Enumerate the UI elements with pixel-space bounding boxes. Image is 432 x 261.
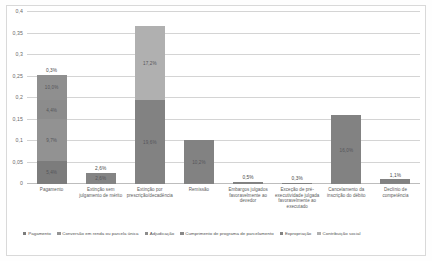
bar-stack[interactable]: 5,4%9,7%4,4%10,0%0,3% [37,75,67,184]
bar-total-label: 0,3% [292,176,303,181]
legend-swatch-icon [57,232,60,235]
bar-segment-value-label: 17,2% [135,60,165,65]
bar-segment-value-label: 9,7% [37,137,67,142]
bar-segment[interactable]: 19,6% [135,100,165,184]
plot-area: 00,050,10,150,20,250,30,350,4 5,4%9,7%4,… [27,12,420,184]
y-axis-tick-label: 0,3 [15,51,23,57]
legend-swatch-icon [280,232,283,235]
legend-item[interactable]: Cumprimento de programa de parcelamento [180,231,274,236]
bar-slot: 0,3% [273,12,322,184]
bar-segment-value-label: 5,4% [37,170,67,175]
bar-segment-value-label: 10,2% [184,160,214,165]
bar-stack[interactable]: 1,1% [380,179,410,184]
legend-label: Conversão em renda ou parcela única [62,231,138,236]
legend-swatch-icon [145,232,148,235]
x-axis-category-label: Extinção sem julgamento de mérito [76,187,125,198]
x-axis-category-label: Exceção de pré-executividade julgada fav… [273,187,322,209]
bar-stack[interactable]: 16,0% [331,115,361,184]
bar-total-label: 1,1% [390,173,401,178]
legend-item[interactable]: Contribuição social [317,231,360,236]
legend-item[interactable]: Adjudicação [145,231,175,236]
bar-segment[interactable]: 16,0% [331,115,361,184]
legend-item[interactable]: Pagamento [23,231,51,236]
bar-segment[interactable]: 10,0% [37,75,67,100]
bar-segment-value-label: 16,0% [331,147,361,152]
x-axis-category-label: Extinção por prescrição/decadência [125,187,174,198]
chart-legend: PagamentoConversão em renda ou parcela ú… [9,231,423,236]
bar-stack[interactable]: 19,6%17,2% [135,26,165,184]
y-axis-tick-label: 0,05 [13,159,24,165]
legend-swatch-icon [23,232,26,235]
legend-label: Adjudicação [150,231,174,236]
bar-stack[interactable]: 0,5% [233,182,263,184]
bar-total-label: 0,3% [46,68,57,73]
x-axis-category-label: Cancelamento da inscrição do débito [322,187,371,198]
bar-segment[interactable] [282,183,312,184]
bars-group: 5,4%9,7%4,4%10,0%0,3%2,6%2,6%19,6%17,2%1… [27,12,420,184]
bar-stack[interactable]: 10,2% [184,140,214,184]
chart-container: 00,050,10,150,20,250,30,350,4 5,4%9,7%4,… [0,0,432,261]
bar-segment[interactable]: 10,2% [184,140,214,184]
bar-slot: 10,2% [174,12,223,184]
y-axis-tick-label: 0,35 [13,30,24,36]
bar-segment[interactable]: 9,7% [37,119,67,161]
bar-segment[interactable] [233,182,263,184]
bar-segment-value-label: 2,6% [86,176,116,181]
y-axis-tick-label: 0 [20,180,23,186]
bar-slot: 0,5% [224,12,273,184]
legend-swatch-icon [317,232,320,235]
y-axis-tick-label: 0,2 [15,94,23,100]
x-axis-category-label: Declínio de competência [371,187,420,198]
legend-item[interactable]: Conversão em renda ou parcela única [57,231,138,236]
legend-label: Cumprimento de programa de parcelamento [185,231,273,236]
legend-swatch-icon [180,232,183,235]
bar-slot: 19,6%17,2% [125,12,174,184]
bar-segment[interactable]: 2,6% [86,173,116,184]
bar-segment[interactable]: 4,4% [37,100,67,119]
bar-slot: 16,0% [322,12,371,184]
y-axis-tick-label: 0,1 [15,137,23,143]
bar-segment[interactable]: 17,2% [135,26,165,100]
legend-label: Expropriação [285,231,311,236]
bar-slot: 5,4%9,7%4,4%10,0%0,3% [27,12,76,184]
bar-segment[interactable]: 5,4% [37,161,67,184]
bar-total-label: 0,5% [242,175,253,180]
bar-segment-value-label: 19,6% [135,139,165,144]
bar-stack[interactable]: 2,6%2,6% [86,173,116,184]
bar-total-label: 2,6% [95,166,106,171]
y-axis-tick-label: 0,4 [15,8,23,14]
bar-slot: 1,1% [371,12,420,184]
bar-stack[interactable]: 0,3% [282,183,312,184]
legend-label: Pagamento [28,231,51,236]
bar-segment-value-label: 10,0% [37,85,67,90]
bar-slot: 2,6%2,6% [76,12,125,184]
legend-item[interactable]: Expropriação [280,231,312,236]
x-axis-category-label: Remissão [174,187,223,193]
x-axis-category-label: Pagamento [27,187,76,193]
x-axis-labels: PagamentoExtinção sem julgamento de méri… [27,187,420,227]
y-axis-tick-label: 0,15 [13,116,24,122]
bar-segment[interactable] [380,179,410,184]
bar-segment-value-label: 4,4% [37,107,67,112]
x-axis-category-label: Embargos julgados favoravelmente ao deve… [224,187,273,204]
legend-label: Contribuição social [323,231,361,236]
y-axis-tick-label: 0,25 [13,73,24,79]
